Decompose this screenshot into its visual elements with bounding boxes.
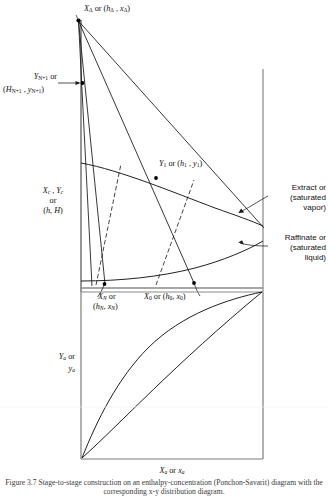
label-xc-yc-line2: (h, H) (28, 206, 78, 216)
point-y-np1 (81, 81, 85, 85)
label-xc-yc-line1: Xc , Yc (28, 186, 78, 196)
figure-caption: Figure 3.7 Stage-to-stage construction o… (0, 478, 328, 496)
leader-raffinate-arrowhead (238, 240, 244, 244)
leader-extract-arrowhead (238, 209, 244, 213)
operating-line-delta-to-extract (79, 21, 265, 228)
label-extract-line1: Extract or (272, 183, 326, 192)
raffinate-envelope-curve (81, 241, 263, 281)
label-xn-line2: (hN, xN) (93, 302, 118, 312)
label-delta-point: XΔ or (hΔ , xΔ) (84, 4, 130, 14)
label-x0: X0 or (h0, x0) (144, 292, 186, 302)
label-y-axis-lower-line2: ya (30, 364, 75, 374)
label-y-np1-line1: YN+1 or (0, 72, 57, 82)
label-x-axis-lower: Xa or xa (122, 466, 222, 476)
label-extract-line2: (saturated (272, 193, 326, 202)
label-extract-line3: vapor) (272, 203, 326, 212)
operating-line-delta-to-xn (79, 21, 106, 284)
label-y-axis-lower-line1: Ya or (30, 352, 75, 362)
extract-envelope-curve (81, 163, 263, 226)
point-y1 (154, 176, 158, 180)
leader-raffinate (240, 243, 268, 246)
operating-line-delta-to-x0 (79, 21, 195, 283)
label-xn-line1: XN or (98, 292, 116, 302)
tie-line-2 (96, 164, 121, 285)
leader-y-np1-arrowhead (76, 81, 81, 85)
leader-extract (240, 196, 268, 212)
label-raffinate-line2: (saturated (266, 243, 326, 252)
label-raffinate-line3: liquid) (266, 253, 326, 262)
label-y1: Y1 or (h1 , y1) (159, 159, 202, 169)
leader-x0 (194, 283, 200, 296)
label-xc-yc-or: or (28, 196, 78, 206)
diagonal-line (82, 292, 262, 458)
label-raffinate-line1: Raffinate or (266, 233, 326, 242)
label-y-np1-line2: (HN+1 , yN+1) (3, 85, 44, 95)
